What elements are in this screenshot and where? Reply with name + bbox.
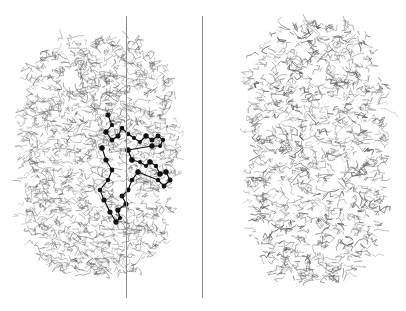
left-vertical-line: [126, 16, 127, 298]
molecular-figure: [0, 0, 406, 311]
center-divider-line: [202, 16, 203, 298]
right-molecule: [240, 14, 398, 286]
molecule-render: [0, 0, 406, 311]
left-molecule: [13, 30, 185, 279]
